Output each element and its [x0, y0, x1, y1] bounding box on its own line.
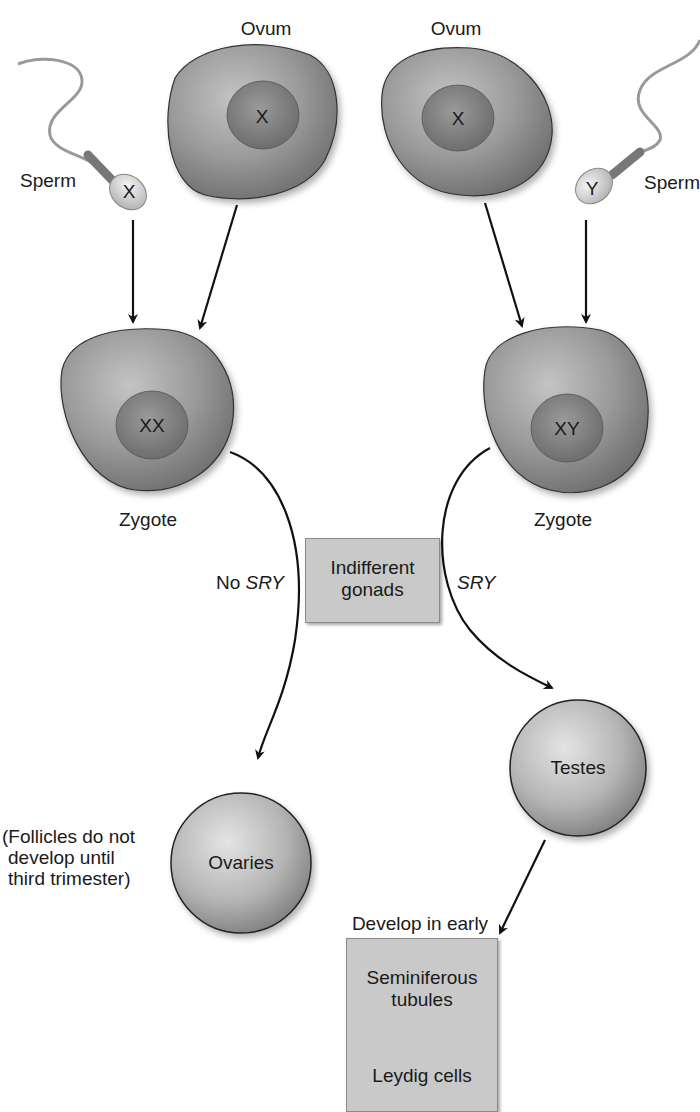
follicles-line2: develop until	[8, 847, 115, 869]
follicles-line3: third trimester)	[8, 868, 130, 890]
zygote-xy-genotype: XY	[554, 418, 579, 440]
no-sry-label: No SRY	[216, 572, 284, 594]
no-sry-prefix: No	[216, 572, 240, 593]
zygote-right-label: Zygote	[534, 509, 592, 531]
zygote-xx-genotype: XX	[139, 415, 164, 437]
seminiferous-line2: tubules	[347, 989, 497, 1011]
sry-gene: SRY	[457, 572, 495, 593]
ovum-right-label: Ovum	[431, 18, 482, 40]
ovaries-label: Ovaries	[208, 852, 273, 874]
ovum-right-chromosome: X	[452, 108, 465, 130]
arrow-testes-to-structures	[500, 840, 545, 933]
sperm-right-chromosome: Y	[586, 178, 599, 200]
indifferent-line1: Indifferent	[306, 557, 439, 579]
ovum-left-label: Ovum	[241, 18, 292, 40]
follicles-line1: (Follicles do not	[2, 826, 135, 848]
ovum-left-chromosome: X	[256, 106, 269, 128]
sperm-left-label: Sperm	[20, 170, 76, 192]
sry-label: SRY	[457, 572, 495, 594]
leydig-label: Leydig cells	[347, 1065, 497, 1087]
sperm-right-label: Sperm	[644, 172, 700, 194]
arrow-ovum-right-to-zygote	[485, 203, 522, 326]
indifferent-line2: gonads	[306, 579, 439, 601]
sperm-left-chromosome: X	[123, 181, 136, 203]
testis-structures-box: Seminiferous tubules Leydig cells	[346, 938, 498, 1112]
testes-label: Testes	[551, 757, 606, 779]
zygote-left-label: Zygote	[119, 509, 177, 531]
arrow-ovum-left-to-zygote	[200, 205, 237, 328]
seminiferous-line1: Seminiferous	[347, 967, 497, 989]
no-sry-gene: SRY	[246, 572, 284, 593]
arrow-no-sry-to-ovaries	[230, 452, 299, 758]
develop-line1: Develop in early	[352, 913, 488, 935]
indifferent-gonads-box: Indifferent gonads	[305, 538, 440, 623]
